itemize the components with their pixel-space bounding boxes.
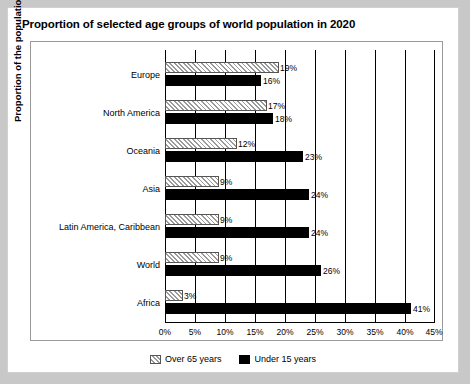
bar-value-over65-europe: 19%: [280, 63, 297, 73]
x-axis-line: [165, 322, 435, 323]
category-group-asia: Asia 9% 24%: [165, 176, 435, 202]
bar-value-under15-africa: 41%: [413, 304, 430, 314]
bar-value-over65-oceania: 12%: [238, 139, 255, 149]
legend-item-under15: Under 15 years: [239, 354, 316, 364]
category-label-north-america: North America: [103, 108, 160, 118]
bar-value-under15-asia: 24%: [311, 190, 328, 200]
bar-over65-latin-america-caribbean[interactable]: 9%: [165, 214, 219, 225]
category-label-europe: Europe: [131, 70, 160, 80]
plot-frame: Proportion of the population 0% 5% 10% 1…: [30, 41, 443, 341]
xtick-label-15: 15%: [240, 327, 270, 337]
xtick-label-5: 5%: [180, 327, 210, 337]
bar-value-over65-world: 9%: [220, 253, 232, 263]
chart-card: Proportion of selected age groups of wor…: [7, 7, 459, 373]
category-group-europe: Europe 19% 16%: [165, 62, 435, 88]
legend-swatch-over65-icon: [150, 355, 161, 364]
chart-legend: Over 65 years Under 15 years: [8, 354, 458, 364]
category-label-asia: Asia: [142, 184, 160, 194]
bar-under15-north-america[interactable]: 18%: [165, 113, 273, 124]
plot-area: 0% 5% 10% 15% 20% 25% 30% 35% 40% 45% Eu…: [165, 50, 435, 323]
bar-value-over65-africa: 3%: [184, 291, 196, 301]
xtick-label-20: 20%: [270, 327, 300, 337]
bar-under15-europe[interactable]: 16%: [165, 75, 261, 86]
category-label-africa: Africa: [137, 298, 160, 308]
bar-under15-asia[interactable]: 24%: [165, 189, 309, 200]
xtick-label-10: 10%: [210, 327, 240, 337]
bar-value-under15-world: 26%: [323, 266, 340, 276]
category-group-north-america: North America 17% 18%: [165, 100, 435, 126]
bar-over65-oceania[interactable]: 12%: [165, 138, 237, 149]
xtick-label-45: 45%: [419, 327, 449, 337]
chart-title: Proportion of selected age groups of wor…: [22, 18, 355, 30]
bar-under15-world[interactable]: 26%: [165, 265, 321, 276]
xtick-label-40: 40%: [390, 327, 420, 337]
bar-under15-latin-america-caribbean[interactable]: 24%: [165, 227, 309, 238]
bar-value-under15-north-america: 18%: [275, 114, 292, 124]
category-group-latin-america-caribbean: Latin America, Caribbean 9% 24%: [165, 214, 435, 240]
bar-under15-oceania[interactable]: 23%: [165, 151, 303, 162]
bar-over65-asia[interactable]: 9%: [165, 176, 219, 187]
bar-value-over65-latin-america-caribbean: 9%: [220, 215, 232, 225]
category-group-africa: Africa 3% 41%: [165, 290, 435, 316]
bar-value-over65-asia: 9%: [220, 177, 232, 187]
category-group-oceania: Oceania 12% 23%: [165, 138, 435, 164]
bar-under15-africa[interactable]: 41%: [165, 303, 411, 314]
bar-value-under15-oceania: 23%: [305, 152, 322, 162]
xtick-label-0: 0%: [150, 327, 180, 337]
xtick-label-25: 25%: [300, 327, 330, 337]
bar-value-under15-europe: 16%: [263, 76, 280, 86]
bar-value-under15-latin-america-caribbean: 24%: [311, 228, 328, 238]
category-label-latin-america-caribbean: Latin America, Caribbean: [59, 222, 160, 232]
category-group-world: World 9% 26%: [165, 252, 435, 278]
bar-over65-north-america[interactable]: 17%: [165, 100, 267, 111]
y-axis-label: Proportion of the population: [12, 0, 23, 122]
legend-item-over65: Over 65 years: [150, 354, 222, 364]
legend-swatch-under15-icon: [239, 355, 250, 364]
bar-over65-europe[interactable]: 19%: [165, 62, 279, 73]
category-label-world: World: [137, 260, 160, 270]
legend-label-over65: Over 65 years: [165, 354, 222, 364]
bar-value-over65-north-america: 17%: [268, 101, 285, 111]
legend-label-under15: Under 15 years: [254, 354, 316, 364]
xtick-label-30: 30%: [330, 327, 360, 337]
category-label-oceania: Oceania: [126, 146, 160, 156]
xtick-label-35: 35%: [360, 327, 390, 337]
bar-over65-world[interactable]: 9%: [165, 252, 219, 263]
bar-over65-africa[interactable]: 3%: [165, 290, 183, 301]
